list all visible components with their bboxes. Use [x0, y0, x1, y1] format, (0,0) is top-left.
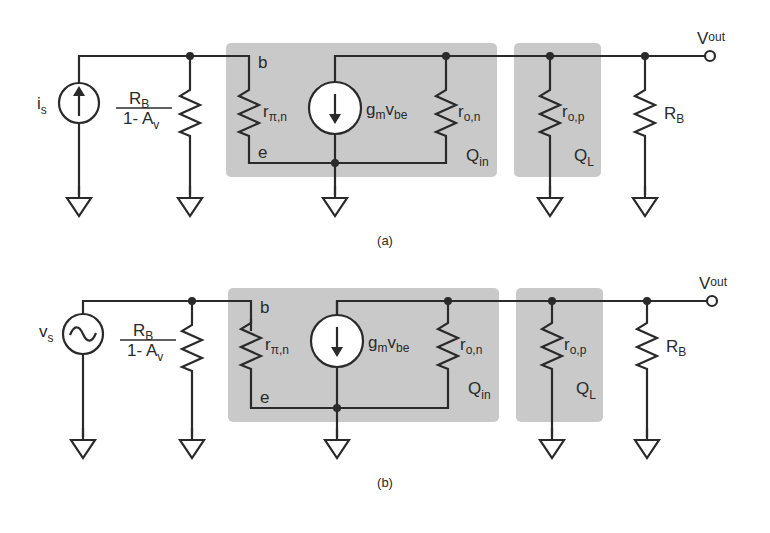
caption-a: (a) [377, 233, 393, 248]
sine-wave-icon [70, 327, 96, 340]
panel-a: is RB 1- Av b e rπ,n gmvbe ro,n Qin [37, 29, 726, 248]
svg-text:RB: RB [666, 337, 686, 359]
svg-text:e: e [258, 143, 267, 162]
svg-text:vs: vs [39, 322, 54, 345]
panel-b: vs RB 1- Av b e rπ,n gmvbe ro,n Qin [39, 274, 728, 490]
svg-text:1- Av: 1- Av [127, 341, 163, 364]
svg-text:RB: RB [664, 104, 684, 126]
vout-terminal [705, 51, 715, 61]
svg-text:Vout: Vout [699, 274, 728, 293]
svg-text:b: b [258, 53, 267, 72]
svg-text:is: is [37, 94, 47, 117]
arrow-up-icon [73, 86, 85, 96]
caption-b: (b) [377, 475, 393, 490]
current-source-is [59, 83, 99, 216]
svg-text:1- Av: 1- Av [123, 109, 159, 132]
svg-text:Vout: Vout [697, 29, 726, 48]
svg-text:e: e [260, 388, 269, 407]
circuit-figure: is RB 1- Av b e rπ,n gmvbe ro,n Qin [0, 0, 770, 533]
vout-terminal [707, 296, 717, 306]
voltage-source-vs [63, 314, 103, 458]
svg-text:b: b [260, 298, 269, 317]
